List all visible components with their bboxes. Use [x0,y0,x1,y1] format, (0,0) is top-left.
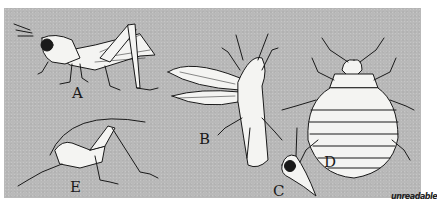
insect-e-drawing [18,119,158,186]
figure-label-d: D [324,155,336,170]
figure-label-c: C [273,184,284,199]
insect-d-drawing [282,38,414,178]
insect-a-drawing [14,24,158,90]
insect-b-drawing [168,34,282,167]
figure-label-e: E [70,180,81,195]
figure-label-b: B [199,132,210,147]
artist-signature: unreadable [391,192,437,201]
figure-label-a: A [72,86,83,101]
